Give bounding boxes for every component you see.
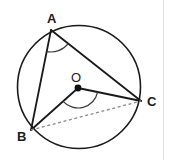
geometry-canvas: A B C O: [0, 0, 169, 160]
geometry-figure: A B C O: [0, 0, 169, 160]
vertex-label-a: A: [47, 11, 57, 26]
inscribed-angle-BAC-arc: [47, 44, 69, 52]
center-label-o: O: [71, 70, 81, 85]
segment-AC: [51, 30, 141, 101]
central-angle-BOC-arc: [63, 92, 97, 108]
vertex-label-b: B: [17, 129, 26, 144]
panel-divider: [163, 0, 164, 160]
center-point-dot: [75, 85, 82, 92]
vertex-label-c: C: [147, 94, 157, 109]
